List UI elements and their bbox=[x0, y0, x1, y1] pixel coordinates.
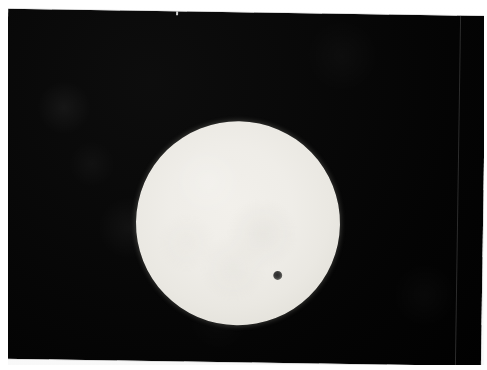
photo-image-area bbox=[3, 9, 486, 366]
margin-left bbox=[0, 0, 8, 370]
photographic-print bbox=[3, 9, 486, 366]
venus-silhouette bbox=[273, 270, 282, 279]
margin-bottom bbox=[0, 365, 487, 370]
photograph-scene bbox=[0, 0, 487, 370]
margin-top bbox=[0, 0, 487, 8]
print-edge-nick bbox=[176, 10, 178, 15]
